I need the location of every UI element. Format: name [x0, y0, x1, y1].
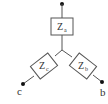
zb-subscript: b — [85, 66, 88, 72]
wye-circuit-diagram: Z a Z c c Z b b — [0, 0, 108, 104]
impedance-zb: Z b — [69, 53, 96, 79]
zc-symbol: Z — [39, 60, 45, 71]
wire-zc-terminal — [23, 76, 34, 84]
terminal-b-node — [100, 80, 104, 84]
zb-symbol: Z — [78, 60, 84, 71]
za-subscript: a — [64, 27, 67, 33]
wire-junction-zb — [62, 50, 72, 57]
impedance-zc: Z c — [30, 53, 57, 79]
impedance-za: Z a — [51, 18, 73, 35]
terminal-c-label: c — [17, 85, 22, 97]
zc-subscript: c — [46, 66, 49, 72]
wire-junction-zc — [55, 50, 62, 56]
terminal-b-label: b — [100, 86, 106, 98]
za-symbol: Z — [57, 21, 63, 32]
